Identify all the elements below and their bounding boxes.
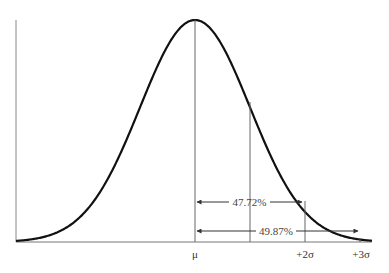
pct-3sigma-label: 49.87% bbox=[259, 225, 293, 237]
normal-distribution-chart: 47.72% 49.87% μ +2σ +3σ bbox=[0, 0, 389, 273]
mu-label: μ bbox=[192, 248, 198, 260]
pct-2sigma-label: 47.72% bbox=[233, 196, 267, 208]
plus3sigma-label: +3σ bbox=[352, 248, 370, 260]
normal-curve bbox=[16, 20, 372, 241]
plus2sigma-label: +2σ bbox=[296, 248, 314, 260]
